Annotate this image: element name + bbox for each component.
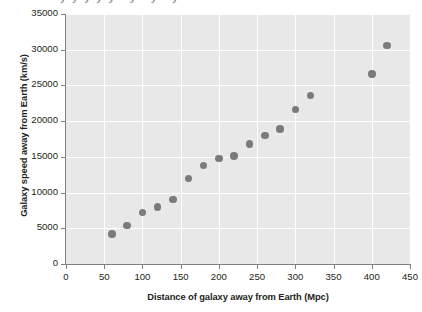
x-tick-mark — [104, 265, 105, 269]
data-point — [276, 125, 284, 133]
x-tick-label: 100 — [122, 271, 162, 282]
gridline-horizontal — [66, 50, 410, 51]
plot-panel — [66, 14, 410, 264]
y-tick-mark — [61, 121, 65, 122]
x-tick-mark — [66, 265, 67, 269]
cropped-heading-text: yyyyy y y y — [60, 0, 184, 3]
x-tick-mark — [219, 265, 220, 269]
x-tick-mark — [257, 265, 258, 269]
y-tick-label: 25000 — [10, 78, 58, 89]
x-axis-title: Distance of galaxy away from Earth (Mpc) — [66, 291, 410, 302]
y-tick-mark — [61, 50, 65, 51]
y-tick-mark — [61, 157, 65, 158]
gridline-vertical — [372, 14, 373, 264]
gridline-vertical — [410, 14, 411, 264]
data-point — [139, 209, 147, 217]
gridline-vertical — [142, 14, 143, 264]
gridline-horizontal — [66, 193, 410, 194]
gridline-vertical — [104, 14, 105, 264]
x-tick-label: 450 — [390, 271, 422, 282]
y-tick-label: 10000 — [10, 186, 58, 197]
y-tick-label: 30000 — [10, 43, 58, 54]
scatter-chart-figure: yyyyy y y y Galaxy speed away from Earth… — [0, 0, 422, 312]
gridline-vertical — [181, 14, 182, 264]
x-tick-label: 150 — [161, 271, 201, 282]
gridline-vertical — [295, 14, 296, 264]
data-point — [154, 203, 162, 211]
y-tick-mark — [61, 264, 65, 265]
y-tick-mark — [61, 228, 65, 229]
gridline-horizontal — [66, 85, 410, 86]
gridline-vertical — [334, 14, 335, 264]
y-tick-label: 5000 — [10, 221, 58, 232]
x-tick-label: 300 — [275, 271, 315, 282]
y-tick-mark — [61, 193, 65, 194]
data-point — [200, 162, 208, 170]
data-point — [108, 230, 116, 238]
data-point — [215, 155, 223, 163]
data-point — [169, 196, 177, 204]
gridline-vertical — [257, 14, 258, 264]
data-point — [383, 42, 391, 50]
x-tick-mark — [295, 265, 296, 269]
data-point — [368, 70, 376, 78]
gridline-vertical — [219, 14, 220, 264]
data-point — [246, 140, 254, 148]
y-tick-label: 0 — [10, 257, 58, 268]
x-tick-label: 0 — [46, 271, 86, 282]
gridline-horizontal — [66, 14, 410, 15]
y-axis-line — [65, 14, 66, 265]
gridline-horizontal — [66, 157, 410, 158]
x-tick-label: 50 — [84, 271, 124, 282]
x-tick-mark — [181, 265, 182, 269]
y-tick-label: 20000 — [10, 114, 58, 125]
x-tick-label: 200 — [199, 271, 239, 282]
x-tick-mark — [410, 265, 411, 269]
x-axis-line — [66, 264, 411, 265]
x-tick-label: 350 — [314, 271, 354, 282]
y-tick-mark — [61, 14, 65, 15]
x-tick-mark — [142, 265, 143, 269]
y-tick-label: 15000 — [10, 150, 58, 161]
y-tick-mark — [61, 85, 65, 86]
data-point — [292, 106, 300, 114]
y-tick-label: 35000 — [10, 7, 58, 18]
x-tick-label: 400 — [352, 271, 392, 282]
gridline-horizontal — [66, 228, 410, 229]
gridline-horizontal — [66, 121, 410, 122]
data-point — [307, 92, 315, 100]
data-point — [185, 175, 193, 183]
data-point — [261, 132, 269, 140]
x-tick-mark — [334, 265, 335, 269]
data-point — [123, 222, 131, 230]
data-point — [230, 152, 238, 160]
x-tick-label: 250 — [237, 271, 277, 282]
cropped-heading-remnant: yyyyy y y y — [0, 0, 422, 7]
x-tick-mark — [372, 265, 373, 269]
